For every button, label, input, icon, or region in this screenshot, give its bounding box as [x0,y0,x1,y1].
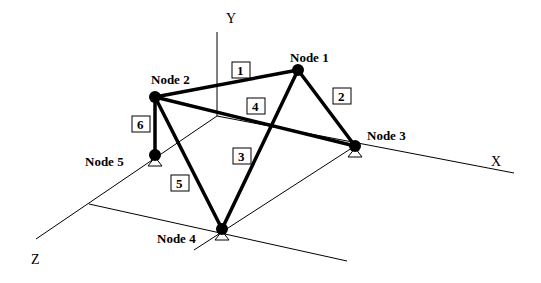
member-6-tag: 6 [132,116,150,132]
member-6-label: 6 [137,117,144,132]
node-3-label: Node 3 [367,128,406,143]
node-1-joint [292,64,304,76]
node-4-label: Node 4 [157,231,196,246]
y-axis-label: Y [226,11,236,26]
member-3-label: 3 [238,149,245,164]
node-5-label: Node 5 [85,154,124,169]
ground-line-z-parallel [194,146,355,250]
axes [36,32,514,261]
node-4-joint [216,223,228,235]
member-5-tag: 5 [171,175,189,191]
member-2-tag: 2 [333,88,351,104]
member-1-label: 1 [237,63,244,78]
member-3-tag: 3 [233,148,251,164]
member-2-label: 2 [338,89,345,104]
member-4-label: 4 [252,99,259,114]
node-1-label: Node 1 [290,50,329,65]
node-2-label: Node 2 [151,72,190,87]
node-5-joint [149,149,161,161]
member-5 [155,97,222,229]
member-4-tag: 4 [247,98,265,114]
z-axis [36,116,217,239]
x-axis-label: X [491,154,501,169]
members [155,70,355,229]
node-3-joint [349,140,361,152]
member-5-label: 5 [176,176,183,191]
z-axis-label: Z [31,252,40,267]
node-2-joint [149,91,161,103]
truss-diagram: Y X Z Node 1 Node 2 Node 3 Node 4 Node 5… [0,0,541,283]
member-1-tag: 1 [232,62,250,78]
